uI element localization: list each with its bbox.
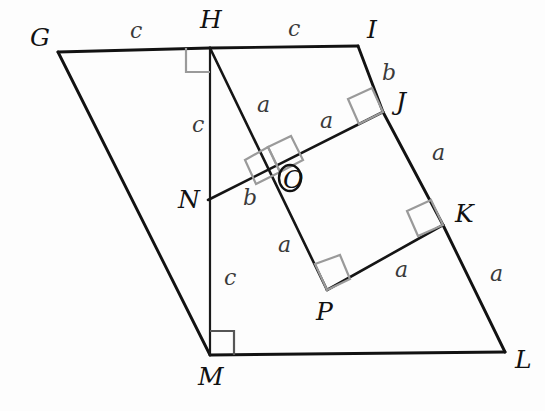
vertex-label-M: M: [197, 362, 225, 391]
segment-HI: [210, 46, 358, 48]
segment-ML: [210, 352, 505, 355]
side-label-c-HN2: c: [192, 112, 204, 137]
right-angle-mark-at-H: [186, 48, 210, 72]
side-label-a-OJ: a: [320, 108, 333, 133]
side-label-b-IJ: b: [382, 60, 396, 85]
diagram-canvas: G H I J K L M N O P c c b a a a c b a c …: [0, 0, 545, 411]
vertex-label-L: L: [514, 345, 532, 374]
side-label-c-HI: c: [288, 16, 300, 41]
vertex-label-O: O: [283, 165, 304, 194]
side-label-c-NM: c: [224, 265, 236, 290]
side-label-a-KL: a: [490, 261, 503, 286]
vertex-label-H: H: [199, 5, 223, 34]
geometry-figure: G H I J K L M N O P c c b a a a c b a c …: [0, 0, 545, 411]
side-label-a-OP: a: [278, 232, 291, 257]
vertex-label-G: G: [30, 23, 50, 52]
vertex-label-J: J: [391, 87, 408, 116]
side-label-a-PK: a: [395, 257, 408, 282]
segment-PK: [327, 225, 443, 290]
side-label-c-GH: c: [130, 18, 142, 43]
vertex-label-N: N: [177, 185, 201, 214]
side-label-b-NO: b: [243, 185, 257, 210]
vertex-label-P: P: [315, 297, 334, 326]
right-angle-mark-at-K: [407, 200, 443, 236]
side-label-a-JK: a: [432, 140, 445, 165]
segment-KL: [443, 225, 505, 352]
vertex-label-I: I: [366, 15, 378, 44]
right-angle-mark-at-M: [210, 331, 234, 355]
right-angle-mark-at-P: [315, 255, 350, 290]
outer-parallelogram: [58, 46, 505, 355]
vertex-label-K: K: [454, 199, 475, 228]
segment-GH: [58, 48, 210, 52]
side-label-a-HN: a: [257, 92, 270, 117]
right-angle-mark-at-J: [348, 88, 383, 124]
vertex-labels: G H I J K L M N O P: [30, 5, 532, 391]
